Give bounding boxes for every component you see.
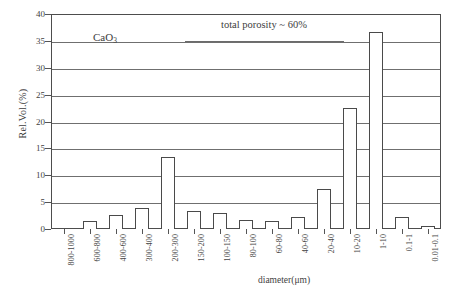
bar-slot [389, 14, 415, 229]
y-tick-label: 10 [23, 170, 45, 180]
bar-slot [207, 14, 233, 229]
bar [291, 217, 305, 229]
x-tick-mark [350, 229, 351, 234]
sample-label-base: CaO [93, 31, 113, 43]
bar-slot [311, 14, 337, 229]
bar [187, 211, 201, 229]
x-tick-mark [428, 229, 429, 234]
x-tick-mark [90, 229, 91, 234]
bar-slot [51, 14, 77, 229]
x-tick-mark [168, 229, 169, 234]
bar [135, 208, 149, 230]
bar-slot [337, 14, 363, 229]
x-tick-label: 0.01-0.1 [431, 234, 440, 296]
bar [213, 213, 227, 229]
bar-slot [415, 14, 441, 229]
x-tick-label: 150-200 [197, 234, 206, 296]
bar [395, 217, 409, 229]
x-tick-label: 800-1000 [67, 234, 76, 296]
bar-chart: Rel.Vol.(%) 0510152025303540 800-1000600… [0, 0, 459, 296]
y-tick-label: 20 [23, 117, 45, 127]
annotation-underline [185, 41, 344, 42]
x-tick-label: 10-20 [353, 234, 362, 296]
bar-slot [285, 14, 311, 229]
x-tick-mark [116, 229, 117, 234]
x-tick-label: 0.1-1 [405, 234, 414, 296]
bar [343, 108, 357, 229]
bar [239, 220, 253, 229]
x-tick-label: 100-150 [223, 234, 232, 296]
y-tick-label: 5 [23, 197, 45, 207]
annotation-total-porosity: total porosity ~ 60% [221, 19, 307, 30]
bar-slot [103, 14, 129, 229]
bar [369, 32, 383, 229]
x-tick-mark [272, 229, 273, 234]
sample-label-subscript: 3 [113, 36, 117, 45]
bar-series [51, 14, 441, 229]
x-tick-label: 60-80 [275, 234, 284, 296]
y-tick-label: 0 [23, 224, 45, 234]
bar-slot [363, 14, 389, 229]
y-tick-label: 15 [23, 143, 45, 153]
x-tick-mark [246, 229, 247, 234]
x-tick-mark [64, 229, 65, 234]
x-tick-label: 400-600 [119, 234, 128, 296]
bar [161, 157, 175, 229]
bar-slot [77, 14, 103, 229]
bar-slot [155, 14, 181, 229]
y-tick-label: 35 [23, 36, 45, 46]
x-tick-mark [324, 229, 325, 234]
x-tick-label: 80-100 [249, 234, 258, 296]
x-axis-label: diameter(μm) [258, 275, 310, 285]
bar [317, 189, 331, 229]
y-tick-label: 30 [23, 63, 45, 73]
bar-slot [259, 14, 285, 229]
x-tick-label: 20-40 [327, 234, 336, 296]
x-tick-mark [194, 229, 195, 234]
x-tick-label: 200-300 [171, 234, 180, 296]
x-tick-label: 600-800 [93, 234, 102, 296]
y-tick-mark [45, 229, 51, 230]
bar [109, 215, 123, 229]
x-tick-mark [142, 229, 143, 234]
annotation-sample-label: CaO3 [93, 31, 117, 43]
x-tick-label: 1-10 [379, 234, 388, 296]
x-tick-label: 40-60 [301, 234, 310, 296]
bar [265, 221, 279, 229]
x-tick-mark [376, 229, 377, 234]
bar [83, 221, 97, 229]
y-tick-label: 25 [23, 90, 45, 100]
y-tick-label: 40 [23, 9, 45, 19]
bar-slot [181, 14, 207, 229]
x-tick-mark [220, 229, 221, 234]
x-tick-label: 300-400 [145, 234, 154, 296]
x-tick-mark [402, 229, 403, 234]
bar-slot [129, 14, 155, 229]
bar-slot [233, 14, 259, 229]
x-tick-mark [298, 229, 299, 234]
